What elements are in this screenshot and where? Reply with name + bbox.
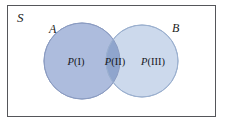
region-label-i: P(I) <box>56 57 96 68</box>
region-i-numeral: (I) <box>74 56 85 67</box>
region-label-iii: P(III) <box>130 57 176 68</box>
sample-space-label: S <box>17 11 24 24</box>
venn-diagram-figure: S A B P(I) P(II) P(III) <box>0 0 229 129</box>
region-label-ii: P(II) <box>96 57 134 68</box>
region-ii-numeral: (II) <box>111 56 125 67</box>
set-b-label: B <box>172 22 179 34</box>
region-iii-numeral: (III) <box>147 56 164 67</box>
set-a-label: A <box>49 23 56 35</box>
